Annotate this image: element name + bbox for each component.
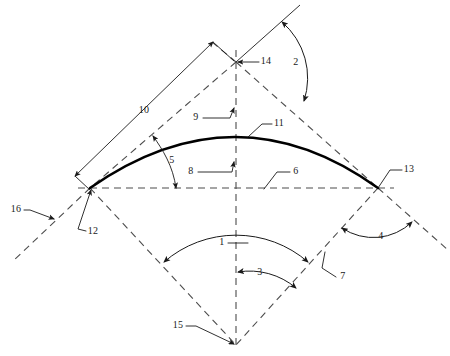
ref-label-8: 8: [188, 165, 193, 176]
leader-8: [198, 162, 234, 172]
leader-6: [264, 172, 290, 189]
ref-label-9: 9: [193, 111, 198, 122]
ref-label-12: 12: [88, 225, 99, 236]
lower-left-extension: [12, 188, 90, 262]
edge-bottom-left: [90, 188, 236, 345]
ref-label-14: 14: [261, 55, 272, 66]
figure-canvas: 1 2 3 4 5 6 7 8 9 10 11 12 13 14 15 16: [0, 0, 450, 356]
patent-figure: 1 2 3 4 5 6 7 8 9 10 11 12 13 14 15 16: [0, 0, 450, 356]
ref-label-3: 3: [257, 266, 262, 277]
ref-label-7: 7: [340, 270, 345, 281]
angle-arc-3: [238, 271, 296, 288]
ref-label-16: 16: [11, 203, 22, 214]
upper-right-ray: [236, 5, 300, 62]
ref-label-1: 1: [219, 236, 224, 247]
ref-label-5: 5: [169, 154, 174, 165]
leader-16: [24, 210, 54, 219]
angle-arc-4: [342, 222, 412, 238]
leader-15: [186, 326, 234, 344]
rhombus-edges: [90, 62, 378, 345]
dimension-10-ext-upper: [213, 42, 234, 61]
dimension-10-group: [75, 42, 234, 190]
edge-top-right: [236, 62, 378, 188]
ref-label-4: 4: [378, 230, 383, 241]
ref-label-13: 13: [404, 163, 415, 174]
ref-label-15: 15: [173, 319, 184, 330]
edge-top-left: [90, 62, 236, 188]
ref-label-6: 6: [293, 165, 298, 176]
reference-numeral-labels: 1 2 3 4 5 6 7 8 9 10 11 12 13 14 15 16: [11, 55, 415, 330]
ref-label-10: 10: [139, 104, 150, 115]
ref-label-11: 11: [274, 117, 284, 128]
lower-right-extension: [378, 188, 448, 250]
leader-13: [378, 170, 402, 188]
leader-7: [322, 252, 336, 277]
ref-label-2: 2: [293, 56, 298, 67]
leader-9: [203, 108, 234, 118]
edge-extensions: [12, 42, 448, 262]
leader-11: [248, 124, 272, 137]
